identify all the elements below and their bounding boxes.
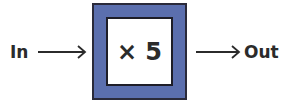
input-label: In xyxy=(10,44,28,61)
output-label: Out xyxy=(244,44,279,61)
operation-label: × 5 xyxy=(117,38,162,66)
function-box: × 5 xyxy=(92,3,187,100)
output-arrow-icon xyxy=(196,45,242,59)
input-arrow-icon xyxy=(38,45,88,59)
function-box-inner: × 5 xyxy=(106,17,173,86)
